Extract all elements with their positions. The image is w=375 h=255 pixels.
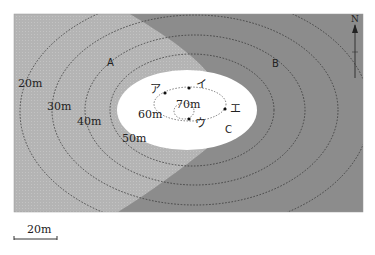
contour-label-60m: 60m bbox=[138, 108, 163, 121]
contour-label-30m: 30m bbox=[47, 100, 72, 113]
region-b-label: B bbox=[272, 58, 279, 69]
scale-bar bbox=[14, 236, 57, 240]
north-label: N bbox=[351, 14, 359, 24]
scale-bar-label: 20m bbox=[27, 223, 52, 236]
point-u-label: ウ bbox=[195, 117, 206, 130]
region-a-label: A bbox=[107, 57, 114, 68]
point-a-label: ア bbox=[150, 83, 161, 96]
contour-label-40m: 40m bbox=[77, 115, 102, 128]
point-e-label: エ bbox=[230, 102, 241, 115]
point-a-marker bbox=[163, 91, 166, 94]
point-u-marker bbox=[187, 117, 190, 120]
contour-label-20m: 20m bbox=[18, 77, 43, 90]
region-c-label: C bbox=[225, 124, 232, 135]
point-i-label: イ bbox=[196, 78, 207, 91]
contour-label-50m: 50m bbox=[122, 132, 147, 145]
point-i-marker bbox=[187, 86, 190, 89]
contour-label-70m: 70m bbox=[176, 98, 201, 111]
contour-map: ア イ エ ウ 20m 30m 40m 50m 60m 70m A B C N … bbox=[0, 0, 375, 255]
point-e-marker bbox=[223, 107, 226, 110]
